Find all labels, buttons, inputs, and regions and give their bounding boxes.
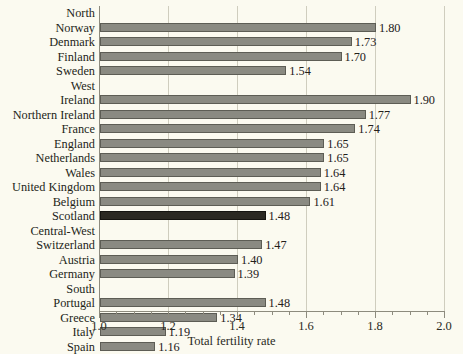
bar-row: Denmark1.73 — [0, 35, 463, 49]
category-label: Northern Ireland — [0, 108, 95, 122]
bar-value-label: 1.48 — [269, 209, 291, 223]
x-axis-title: Total fertility rate — [0, 334, 463, 349]
bar — [100, 52, 342, 61]
bar-row: France1.74 — [0, 122, 463, 136]
bar-row: Finland1.70 — [0, 50, 463, 64]
bar — [100, 197, 310, 206]
category-label: Norway — [0, 21, 95, 35]
bar — [100, 313, 217, 322]
x-tick-minor — [272, 312, 273, 315]
group-header-row: West — [0, 79, 463, 93]
group-label: North — [0, 6, 95, 20]
bar-value-label: 1.90 — [414, 93, 436, 107]
bar-row: Netherlands1.65 — [0, 151, 463, 165]
group-label: South — [0, 282, 95, 296]
bar — [100, 298, 266, 307]
x-tick-major — [237, 312, 238, 318]
bar — [100, 124, 355, 133]
bar-value-label: 1.64 — [324, 166, 346, 180]
bar-value-label: 1.70 — [345, 50, 367, 64]
bar-value-label: 1.74 — [358, 122, 380, 136]
bar-value-label: 1.54 — [289, 64, 311, 78]
category-label: Denmark — [0, 35, 95, 49]
x-tick-minor — [410, 312, 411, 315]
bar-row: England1.65 — [0, 137, 463, 151]
x-tick-major — [99, 312, 100, 318]
fertility-rate-bar-chart: NorthNorway1.80Denmark1.73Finland1.70Swe… — [0, 0, 463, 354]
x-tick-major — [375, 312, 376, 318]
bar — [100, 269, 235, 278]
bar-row: Portugal1.48 — [0, 296, 463, 310]
category-label: Austria — [0, 253, 95, 267]
x-tick-minor — [341, 312, 342, 315]
bar-value-label: 1.39 — [238, 267, 260, 281]
category-label: Greece — [0, 311, 95, 325]
bar — [100, 23, 376, 32]
x-tick-minor — [203, 312, 204, 315]
category-label: Finland — [0, 50, 95, 64]
x-tick-label: 1.2 — [160, 319, 176, 334]
bar — [100, 66, 286, 75]
group-label: Central-West — [0, 224, 95, 238]
x-tick-minor — [151, 312, 152, 315]
x-tick-label: 1.0 — [91, 319, 107, 334]
bar-value-label: 1.65 — [327, 137, 349, 151]
bar-value-label: 1.80 — [379, 21, 401, 35]
bar-row: Sweden1.54 — [0, 64, 463, 78]
bar — [100, 37, 352, 46]
bar — [100, 255, 238, 264]
x-tick-minor — [323, 312, 324, 315]
bar — [100, 182, 321, 191]
x-tick-minor — [116, 312, 117, 315]
x-tick-minor — [392, 312, 393, 315]
bar — [100, 211, 266, 220]
group-header-row: South — [0, 282, 463, 296]
bar-value-label: 1.77 — [369, 108, 391, 122]
bar — [100, 95, 411, 104]
category-label: Netherlands — [0, 151, 95, 165]
x-tick-label: 1.6 — [298, 319, 314, 334]
x-tick-label: 2.0 — [436, 319, 452, 334]
category-label: Wales — [0, 166, 95, 180]
bar-row: Austria1.40 — [0, 253, 463, 267]
x-tick-major — [444, 312, 445, 318]
bar-value-label: 1.61 — [313, 195, 335, 209]
bar — [100, 240, 262, 249]
bar-row: Switzerland1.47 — [0, 238, 463, 252]
bar-value-label: 1.47 — [265, 238, 287, 252]
bar-value-label: 1.64 — [324, 180, 346, 194]
x-tick-minor — [185, 312, 186, 315]
category-label: Scotland — [0, 209, 95, 223]
category-label: Ireland — [0, 93, 95, 107]
bar-row: Belgium1.61 — [0, 195, 463, 209]
x-tick-major — [168, 312, 169, 318]
bar — [100, 110, 366, 119]
x-tick-minor — [254, 312, 255, 315]
x-tick-label: 1.4 — [229, 319, 245, 334]
category-label: England — [0, 137, 95, 151]
bar-value-label: 1.73 — [355, 35, 377, 49]
group-header-row: North — [0, 6, 463, 20]
x-tick-minor — [134, 312, 135, 315]
category-label: United Kingdom — [0, 180, 95, 194]
bar-row: Germany1.39 — [0, 267, 463, 281]
bar-value-label: 1.40 — [241, 253, 263, 267]
x-tick-label: 1.8 — [367, 319, 383, 334]
x-tick-minor — [220, 312, 221, 315]
bar — [100, 153, 324, 162]
x-tick-minor — [289, 312, 290, 315]
category-label: Portugal — [0, 296, 95, 310]
bar-value-label: 1.65 — [327, 151, 349, 165]
x-tick-minor — [427, 312, 428, 315]
bar-value-label: 1.48 — [269, 296, 291, 310]
bar — [100, 139, 324, 148]
x-tick-major — [306, 312, 307, 318]
bar-row: Norway1.80 — [0, 21, 463, 35]
bar — [100, 168, 321, 177]
x-tick-minor — [358, 312, 359, 315]
category-label: Switzerland — [0, 238, 95, 252]
category-label: Sweden — [0, 64, 95, 78]
group-label: West — [0, 79, 95, 93]
bar-row: United Kingdom1.64 — [0, 180, 463, 194]
category-label: Germany — [0, 267, 95, 281]
